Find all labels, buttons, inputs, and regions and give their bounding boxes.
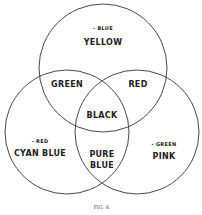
region-bottom-label-line1: PURE xyxy=(89,150,114,159)
region-right-label: PINK xyxy=(153,152,176,161)
region-bottom-label-line2: BLUE xyxy=(90,161,114,170)
region-left-note: - RED xyxy=(32,138,49,144)
figure-caption: FIG. 8. xyxy=(93,204,111,210)
region-top-label: YELLOW xyxy=(83,38,123,47)
region-right-note: - GREEN xyxy=(152,141,177,147)
region-top-note: - BLUE xyxy=(93,25,113,31)
region-top-left-label: GREEN xyxy=(51,80,83,89)
region-top-right-label: RED xyxy=(128,80,147,89)
region-center-label: BLACK xyxy=(87,111,118,120)
region-left-label: CYAN BLUE xyxy=(14,149,66,158)
venn-diagram: - BLUE YELLOW GREEN RED BLACK - RED CYAN… xyxy=(0,0,202,215)
